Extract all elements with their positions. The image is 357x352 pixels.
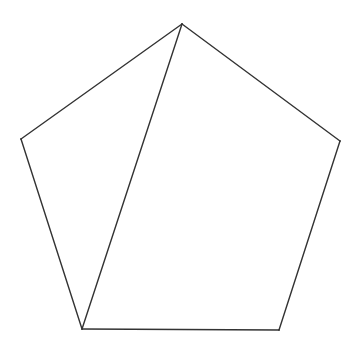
side-lower-left-to-upper-left [21,139,82,329]
side-upper-left-to-top [21,24,182,139]
vertex-top [181,23,182,24]
side-upper-right-to-lower-right [279,141,340,330]
vertex-upper-left [20,138,21,139]
side-lower-right-to-lower-left [82,329,279,330]
pentagon-diagram [0,0,357,352]
vertex-upper-right [339,140,340,141]
side-top-to-upper-right [182,24,340,141]
vertex-lower-left [81,328,82,329]
diagonal-top-to-lower-left [82,24,182,329]
vertex-lower-right [278,329,279,330]
